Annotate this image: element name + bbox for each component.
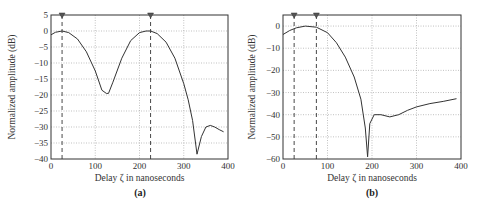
x-tick-label: 300 — [177, 161, 191, 171]
x-tick-label: 200 — [133, 161, 147, 171]
y-tick-label: −35 — [34, 138, 49, 148]
x-tick-label: 400 — [221, 161, 235, 171]
x-tick-label: 100 — [89, 161, 103, 171]
x-tick-label: 200 — [365, 161, 379, 171]
y-tick-label: −60 — [266, 154, 281, 164]
y-tick-label: −40 — [266, 110, 281, 120]
plot-frame — [283, 15, 461, 159]
chart-panel-b: 01002003004000−10−20−30−40−50−60Delay ζ … — [247, 13, 468, 199]
y-tick-label: −25 — [34, 106, 49, 116]
y-tick-label: −50 — [266, 132, 281, 142]
chart-canvas: 010020030040050−5−10−15−20−25−30−35−40De… — [0, 0, 487, 207]
panel-caption: (a) — [134, 187, 146, 199]
y-tick-label: 5 — [44, 10, 49, 20]
x-tick-label: 300 — [410, 161, 424, 171]
y-tick-label: −10 — [266, 43, 281, 53]
x-tick-label: 0 — [49, 161, 54, 171]
y-tick-label: −30 — [266, 88, 281, 98]
y-tick-label: −40 — [34, 154, 49, 164]
data-line — [51, 31, 224, 154]
x-tick-label: 0 — [281, 161, 286, 171]
y-tick-label: 0 — [276, 21, 281, 31]
panel-caption: (b) — [366, 187, 378, 199]
y-tick-label: −10 — [34, 58, 49, 68]
x-axis-label: Delay ζ in nanoseconds — [95, 173, 185, 184]
y-tick-label: −15 — [34, 74, 49, 84]
x-tick-label: 400 — [454, 161, 468, 171]
y-tick-label: −20 — [34, 90, 49, 100]
data-line — [283, 26, 457, 157]
y-tick-label: −30 — [34, 122, 49, 132]
y-axis-label: Normalized amplitude (dB) — [7, 35, 18, 140]
y-tick-label: −20 — [266, 65, 281, 75]
x-tick-label: 100 — [321, 161, 335, 171]
x-axis-label: Delay ζ in nanoseconds — [327, 173, 417, 184]
y-axis-label: Normalized amplitude (dB) — [247, 35, 258, 140]
y-tick-label: −5 — [38, 42, 48, 52]
y-tick-label: 0 — [44, 26, 49, 36]
grid — [283, 15, 461, 159]
chart-panel-a: 010020030040050−5−10−15−20−25−30−35−40De… — [7, 10, 235, 199]
